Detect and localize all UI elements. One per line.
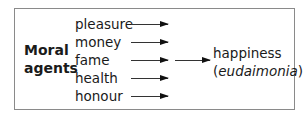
- moral-agents-line2: agents: [24, 59, 78, 77]
- arrow-right-icon: [131, 78, 168, 79]
- happiness-label: happiness: [213, 44, 303, 62]
- item-fame: fame: [75, 52, 109, 68]
- arrow-to-happiness-icon: [175, 60, 210, 61]
- arrow-right-icon: [131, 42, 168, 43]
- arrow-right-icon: [131, 60, 168, 61]
- item-honour: honour: [75, 88, 123, 104]
- arrow-right-icon: [131, 24, 168, 25]
- close-paren: ): [298, 63, 303, 79]
- eudaimonia-label: (eudaimonia): [213, 62, 303, 80]
- outcome-happiness: happiness (eudaimonia): [213, 44, 303, 80]
- eudaimonia-term: eudaimonia: [218, 63, 297, 79]
- moral-agents-line1: Moral: [24, 41, 78, 59]
- item-money: money: [75, 34, 121, 50]
- arrow-right-icon: [131, 96, 168, 97]
- item-pleasure: pleasure: [75, 16, 133, 32]
- moral-agents-label: Moral agents: [24, 41, 78, 77]
- item-health: health: [75, 70, 118, 86]
